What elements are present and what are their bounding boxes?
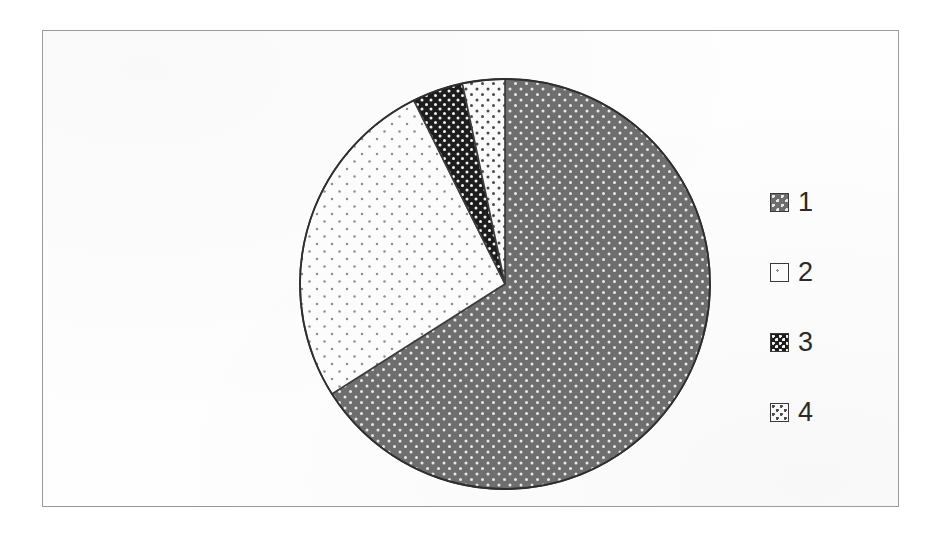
chart-frame: 1 2 3 4 [42, 30, 899, 507]
legend-item-3[interactable]: 3 [770, 329, 880, 355]
legend-label-3: 3 [798, 329, 813, 356]
legend-swatch-series-4 [770, 403, 789, 422]
legend-swatch-series-2 [770, 263, 789, 282]
legend-label-4: 4 [798, 399, 813, 426]
legend-item-1[interactable]: 1 [770, 189, 880, 215]
legend-swatch-series-1 [770, 193, 789, 212]
legend-item-2[interactable]: 2 [770, 259, 880, 285]
pie-slices [300, 79, 710, 489]
screenshot-canvas: 1 2 3 4 [0, 0, 941, 538]
pie-chart [298, 75, 716, 495]
legend-label-1: 1 [798, 189, 813, 216]
pie-chart-svg [298, 75, 716, 495]
legend-item-4[interactable]: 4 [770, 399, 880, 425]
legend-swatch-series-3 [770, 333, 789, 352]
legend-label-2: 2 [798, 259, 813, 286]
chart-legend: 1 2 3 4 [770, 189, 880, 425]
